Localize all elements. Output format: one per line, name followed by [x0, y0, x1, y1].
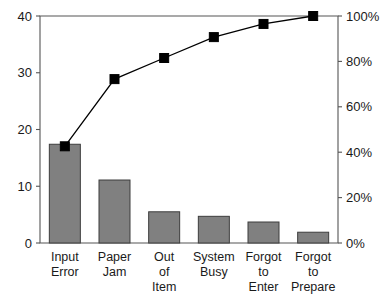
right-axis: 0%20%40%60%80%100%: [338, 9, 380, 251]
category-label: OutofItem: [152, 250, 176, 294]
left-axis-tick-label: 0: [25, 236, 32, 251]
left-axis-tick-label: 20: [18, 122, 32, 137]
category-label-line: Enter: [249, 280, 279, 294]
bar: [248, 222, 279, 243]
category-label-line: Forgot: [245, 250, 282, 264]
category-label-line: Input: [51, 250, 79, 264]
left-axis: 010203040: [18, 9, 40, 251]
category-label-line: Item: [152, 280, 176, 294]
category-label-line: Forgot: [295, 250, 332, 264]
plot-frame: [40, 16, 338, 243]
chart-canvas: 010203040 0%20%40%60%80%100% InputErrorP…: [0, 0, 389, 307]
cumulative-line-series: [65, 16, 313, 146]
pareto-chart: 010203040 0%20%40%60%80%100% InputErrorP…: [0, 0, 389, 307]
bar: [149, 212, 180, 243]
data-point-marker: [309, 12, 318, 21]
category-label-line: Jam: [103, 265, 127, 279]
right-axis-tick-label: 40%: [346, 145, 372, 160]
category-label-line: to: [308, 265, 318, 279]
right-axis-tick-label: 0%: [346, 236, 365, 251]
left-axis-tick-label: 10: [18, 179, 32, 194]
category-label: InputError: [51, 250, 79, 279]
cumulative-line-markers: [60, 12, 317, 151]
category-label-line: of: [159, 265, 170, 279]
category-label-line: to: [258, 265, 268, 279]
bar-series: [49, 144, 328, 243]
data-point-marker: [60, 142, 69, 151]
plot-border: [40, 16, 338, 243]
bar: [99, 180, 130, 243]
left-axis-tick-label: 30: [18, 65, 32, 80]
category-label: ForgottoPrepare: [291, 250, 336, 294]
right-axis-tick-label: 100%: [346, 9, 380, 24]
data-point-marker: [160, 53, 169, 62]
bar: [198, 216, 229, 243]
category-label: ForgottoEnter: [245, 250, 282, 294]
category-label: SystemBusy: [193, 250, 235, 279]
right-axis-tick-label: 60%: [346, 99, 372, 114]
data-point-marker: [110, 75, 119, 84]
category-label-line: Paper: [98, 250, 131, 264]
category-label: PaperJam: [98, 250, 131, 279]
category-label-line: Prepare: [291, 280, 336, 294]
category-axis-labels: InputErrorPaperJamOutofItemSystemBusyFor…: [51, 250, 336, 294]
right-axis-tick-label: 20%: [346, 190, 372, 205]
category-label-line: Busy: [200, 265, 229, 279]
right-axis-tick-label: 80%: [346, 54, 372, 69]
bar: [298, 232, 329, 243]
left-axis-tick-label: 40: [18, 9, 32, 24]
category-label-line: System: [193, 250, 235, 264]
data-point-marker: [259, 19, 268, 28]
category-label-line: Error: [51, 265, 79, 279]
bar: [49, 144, 80, 243]
category-label-line: Out: [154, 250, 175, 264]
data-point-marker: [209, 33, 218, 42]
cumulative-line: [65, 16, 313, 146]
